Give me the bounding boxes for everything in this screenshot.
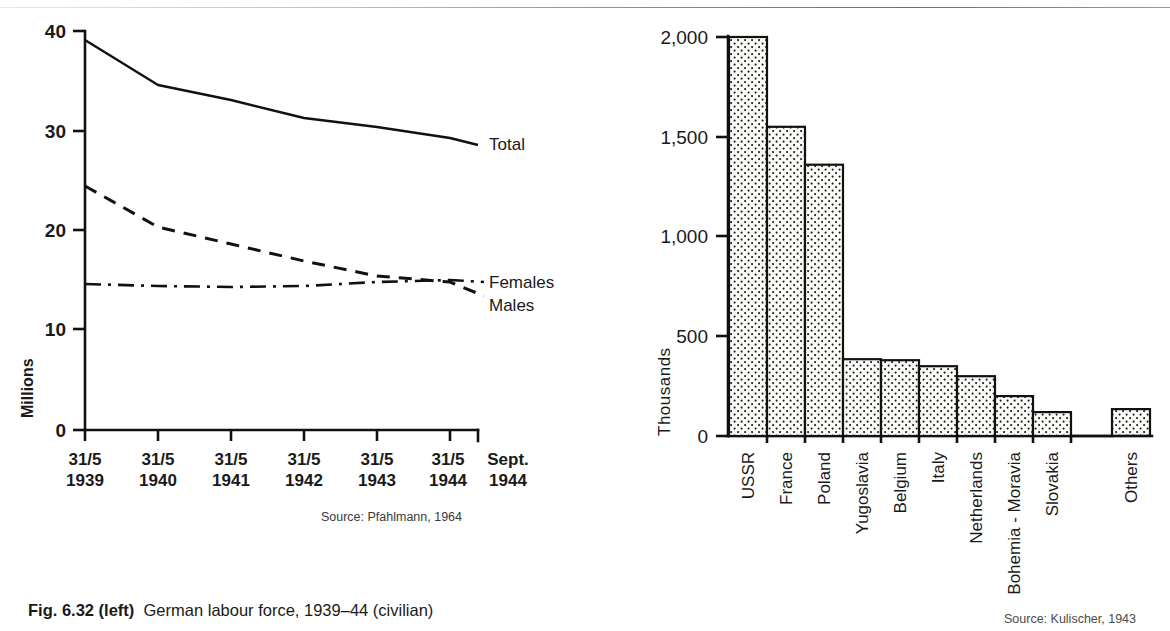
left-x-label-0-line2: 1939	[66, 471, 104, 490]
series-label-females: Females	[489, 273, 554, 292]
right-y-tick-1000: 1,000	[660, 226, 708, 247]
cat-label-netherlands: Netherlands	[967, 452, 986, 544]
bar-group	[729, 37, 1150, 436]
bar-france	[767, 127, 805, 436]
left-x-label-4-line2: 1943	[358, 471, 396, 490]
left-x-label-3-line1: 31/5	[287, 450, 320, 469]
figure-caption: Fig. 6.32 (left) German labour force, 19…	[28, 601, 433, 620]
left-x-label-4-line1: 31/5	[360, 450, 393, 469]
left-y-tick-20: 20	[45, 220, 66, 241]
bar-netherlands	[957, 376, 995, 436]
bar-italy	[919, 366, 957, 436]
series-total-line	[85, 40, 478, 145]
right-y-axis-title: Thousands	[655, 347, 674, 436]
cat-label-france: France	[777, 452, 796, 505]
left-x-label-5-line2: 1944	[429, 471, 467, 490]
left-y-tick-40: 40	[45, 21, 66, 42]
cat-label-bohemia-moravia: Bohemia - Moravia	[1005, 451, 1024, 594]
series-label-males: Males	[489, 296, 534, 315]
cat-label-others: Others	[1122, 452, 1141, 503]
cat-label-ussr: USSR	[739, 452, 758, 499]
right-category-labels: USSR France Poland Yugoslavia Belgium It…	[739, 451, 1141, 594]
left-x-ticks	[85, 430, 450, 441]
right-y-tick-2000: 2,000	[660, 27, 708, 48]
left-y-axis-title: Millions	[19, 358, 36, 418]
cat-label-poland: Poland	[815, 452, 834, 505]
bar-slovakia	[1033, 412, 1071, 436]
left-x-label-2-line1: 31/5	[214, 450, 247, 469]
right-y-tick-500: 500	[676, 326, 708, 347]
bar-belgium	[881, 360, 919, 436]
left-x-label-5-line1: 31/5	[431, 450, 464, 469]
left-x-label-3-line2: 1942	[285, 471, 323, 490]
left-x-label-6-line2: 1944	[489, 471, 527, 490]
cat-label-italy: Italy	[929, 452, 948, 484]
left-line-chart: 40 30 20 10 0 Millions 31/5 1939 31/5	[0, 0, 600, 560]
cat-label-slovakia: Slovakia	[1043, 451, 1062, 516]
figure-page: 40 30 20 10 0 Millions 31/5 1939 31/5	[0, 0, 1170, 631]
bar-bohemia-moravia	[995, 396, 1033, 436]
bar-yugoslavia	[843, 359, 881, 436]
left-y-tick-30: 30	[45, 121, 66, 142]
series-females-line	[85, 280, 484, 287]
left-x-label-2-line2: 1941	[212, 471, 250, 490]
right-y-tick-1500: 1,500	[660, 127, 708, 148]
figure-caption-text: German labour force, 1939–44 (civilian)	[144, 601, 434, 619]
right-chart-source: Source: Kulischer, 1943	[1004, 612, 1136, 626]
left-y-ticks	[73, 31, 85, 430]
left-chart-source: Source: Pfahlmann, 1964	[321, 510, 462, 524]
cat-label-belgium: Belgium	[891, 452, 910, 513]
bar-poland	[805, 165, 843, 436]
cat-label-yugoslavia: Yugoslavia	[853, 451, 872, 534]
left-y-tick-0: 0	[55, 420, 66, 441]
left-x-tick-labels: 31/5 1939 31/5 1940 31/5 1941 31/5 1942 …	[66, 450, 529, 490]
right-bar-chart: 2,000 1,500 1,000 500 0 Thousands	[600, 0, 1170, 600]
series-label-total: Total	[489, 135, 525, 154]
left-x-label-6-line1: Sept.	[487, 450, 529, 469]
right-y-tick-0: 0	[697, 426, 708, 447]
bar-ussr	[729, 37, 767, 436]
bar-others	[1112, 409, 1150, 436]
left-x-label-0-line1: 31/5	[68, 450, 101, 469]
left-y-tick-10: 10	[45, 319, 66, 340]
left-x-label-1-line2: 1940	[139, 471, 177, 490]
left-x-label-1-line1: 31/5	[141, 450, 174, 469]
figure-caption-label: Fig. 6.32 (left)	[28, 601, 134, 619]
